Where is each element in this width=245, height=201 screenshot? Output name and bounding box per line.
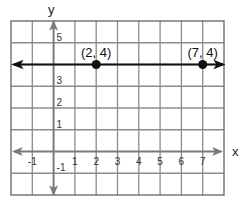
x-tick-label: 6 (179, 156, 185, 167)
x-tick-label: 3 (115, 156, 121, 167)
coordinate-plane: -11234567-11235 (2, 4)(7, 4) y x (0, 0, 245, 201)
data-series: (2, 4)(7, 4) (14, 45, 223, 70)
y-tick-label: 2 (57, 97, 63, 108)
x-tick-label: 5 (157, 156, 163, 167)
y-tick-label: 3 (57, 75, 63, 86)
x-tick-label: -1 (28, 156, 37, 167)
data-point (92, 60, 101, 69)
x-tick-label: 1 (72, 156, 78, 167)
point-label: (2, 4) (81, 45, 111, 60)
x-tick-label: 4 (136, 156, 142, 167)
x-tick-label: 2 (93, 156, 99, 167)
y-tick-label: 1 (57, 119, 63, 130)
x-tick-label: 7 (200, 156, 206, 167)
y-tick-label: -1 (57, 162, 66, 173)
data-point (198, 60, 207, 69)
x-axis-title: x (232, 144, 239, 159)
point-label: (7, 4) (188, 45, 218, 60)
y-axis-title: y (48, 2, 55, 17)
y-tick-label: 5 (57, 32, 63, 43)
